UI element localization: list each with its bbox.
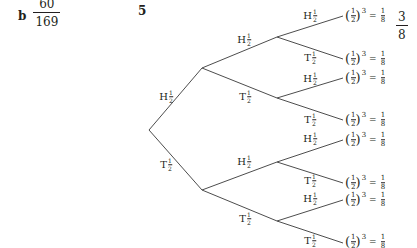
outcome-letter: H bbox=[303, 194, 312, 205]
branch-label-t: T 12 bbox=[239, 212, 251, 226]
probability-half: 12 bbox=[313, 9, 317, 23]
result-den: 8 bbox=[381, 119, 385, 128]
outcome-letter: T bbox=[304, 236, 311, 247]
result-num: 1 bbox=[381, 112, 385, 119]
result-num: 1 bbox=[381, 192, 385, 199]
open-paren: ( bbox=[345, 134, 350, 147]
leaf-probability: (12)3=18 bbox=[345, 234, 385, 248]
prob-den: 2 bbox=[312, 240, 316, 248]
branch-label-t: T 12 bbox=[304, 174, 316, 188]
leaf-probability: (12)3=18 bbox=[345, 192, 385, 208]
open-paren: ( bbox=[345, 236, 350, 248]
result-num: 1 bbox=[381, 8, 385, 15]
result-den: 8 bbox=[381, 182, 385, 191]
prob-den: 2 bbox=[313, 138, 317, 146]
exponent: 3 bbox=[362, 174, 366, 182]
probability-half: 12 bbox=[247, 212, 251, 226]
leaf-probability: (12)3=18 bbox=[345, 112, 385, 128]
probability-half: 12 bbox=[312, 113, 316, 127]
result-num: 1 bbox=[381, 175, 385, 182]
close-paren: ) bbox=[356, 53, 361, 66]
result-den: 8 bbox=[381, 15, 385, 24]
open-paren: ( bbox=[345, 177, 350, 190]
outcome-letter: H bbox=[237, 157, 246, 168]
branch-label-h: H 12 bbox=[303, 9, 317, 23]
result-fraction: 18 bbox=[381, 8, 385, 24]
probability-half: 12 bbox=[169, 90, 173, 104]
prob-den: 2 bbox=[313, 78, 317, 86]
equals-sign: = bbox=[369, 115, 377, 125]
close-paren: ) bbox=[356, 134, 361, 147]
leaf-probability: (12)3=18 bbox=[345, 8, 385, 24]
prob-den: 2 bbox=[168, 164, 172, 172]
branch-label-t: T 12 bbox=[304, 51, 316, 65]
branch-label-h: H 12 bbox=[303, 192, 317, 206]
result-fraction: 18 bbox=[381, 175, 385, 191]
outcome-letter: T bbox=[239, 92, 246, 103]
prob-den: 2 bbox=[313, 15, 317, 23]
result-den: 8 bbox=[381, 241, 385, 248]
branch-label-t: T 12 bbox=[160, 158, 172, 172]
equals-sign: = bbox=[369, 178, 377, 188]
exponent: 3 bbox=[362, 7, 366, 15]
branch-label-t: T 12 bbox=[239, 90, 251, 104]
prob-den: 2 bbox=[247, 161, 251, 169]
leaf-probability: (12)3=18 bbox=[345, 51, 385, 67]
exponent: 3 bbox=[362, 131, 366, 139]
prob-den: 2 bbox=[312, 180, 316, 188]
prob-den: 2 bbox=[247, 218, 251, 226]
branch-line bbox=[149, 130, 202, 190]
result-den: 8 bbox=[381, 77, 385, 86]
result-fraction: 18 bbox=[381, 132, 385, 148]
result-den: 8 bbox=[381, 139, 385, 148]
close-paren: ) bbox=[356, 194, 361, 207]
open-paren: ( bbox=[345, 72, 350, 85]
close-paren: ) bbox=[356, 114, 361, 127]
probability-half: 12 bbox=[312, 174, 316, 188]
prob-den: 2 bbox=[313, 198, 317, 206]
close-paren: ) bbox=[356, 10, 361, 23]
equals-sign: = bbox=[369, 195, 377, 205]
close-paren: ) bbox=[356, 177, 361, 190]
leaf-probability: (12)3=18 bbox=[345, 132, 385, 148]
probability-half: 12 bbox=[313, 132, 317, 146]
result-fraction: 18 bbox=[381, 234, 385, 248]
exponent: 3 bbox=[362, 191, 366, 199]
branch-label-h: H 12 bbox=[303, 72, 317, 86]
close-paren: ) bbox=[356, 236, 361, 248]
outcome-letter: H bbox=[303, 74, 312, 85]
branch-label-h: H 12 bbox=[237, 33, 251, 47]
result-fraction: 18 bbox=[381, 51, 385, 67]
branch-label-h: H 12 bbox=[159, 90, 173, 104]
outcome-letter: H bbox=[303, 134, 312, 145]
outcome-letter: H bbox=[159, 92, 168, 103]
probability-half: 12 bbox=[312, 51, 316, 65]
open-paren: ( bbox=[345, 114, 350, 127]
outcome-letter: H bbox=[237, 35, 246, 46]
prob-den: 2 bbox=[312, 119, 316, 127]
outcome-letter: H bbox=[303, 11, 312, 22]
leaf-probability: (12)3=18 bbox=[345, 175, 385, 191]
prob-den: 2 bbox=[169, 96, 173, 104]
open-paren: ( bbox=[345, 10, 350, 23]
result-num: 1 bbox=[381, 70, 385, 77]
outcome-letter: T bbox=[304, 53, 311, 64]
close-paren: ) bbox=[356, 72, 361, 85]
prob-den: 2 bbox=[247, 39, 251, 47]
probability-half: 12 bbox=[247, 90, 251, 104]
outcome-letter: T bbox=[239, 214, 246, 225]
probability-half: 12 bbox=[247, 33, 251, 47]
branch-label-h: H 12 bbox=[303, 132, 317, 146]
equals-sign: = bbox=[369, 135, 377, 145]
open-paren: ( bbox=[345, 53, 350, 66]
probability-half: 12 bbox=[313, 72, 317, 86]
prob-den: 2 bbox=[312, 57, 316, 65]
branch-label-h: H 12 bbox=[237, 155, 251, 169]
exponent: 3 bbox=[362, 111, 366, 119]
result-num: 1 bbox=[381, 234, 385, 241]
prob-den: 2 bbox=[247, 96, 251, 104]
outcome-letter: T bbox=[304, 176, 311, 187]
equals-sign: = bbox=[369, 54, 377, 64]
probability-half: 12 bbox=[313, 192, 317, 206]
outcome-letter: T bbox=[304, 115, 311, 126]
